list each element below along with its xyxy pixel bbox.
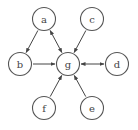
edge-f-g <box>50 75 62 96</box>
node-c: c <box>81 8 104 31</box>
node-label: a <box>41 14 47 25</box>
node-f: f <box>33 97 56 120</box>
edge-c-g <box>74 30 86 52</box>
edge-line <box>74 30 86 52</box>
nodes-layer: acbgdfe <box>9 8 129 120</box>
node-label: g <box>65 59 72 70</box>
node-e: e <box>81 97 104 120</box>
node-label: b <box>17 59 23 70</box>
node-label: c <box>89 14 95 25</box>
node-b: b <box>9 53 32 76</box>
edge-line <box>50 30 62 52</box>
edge-a-g <box>50 30 62 52</box>
directed-graph: acbgdfe <box>0 0 138 130</box>
node-label: e <box>89 103 95 114</box>
node-a: a <box>33 8 56 31</box>
node-d: d <box>106 53 129 76</box>
node-g: g <box>57 53 80 76</box>
edge-a-b <box>26 30 38 52</box>
node-label: d <box>114 59 121 70</box>
edge-line <box>74 75 86 96</box>
edge-e-g <box>74 75 86 96</box>
edge-line <box>50 75 62 96</box>
edge-line <box>26 30 38 52</box>
